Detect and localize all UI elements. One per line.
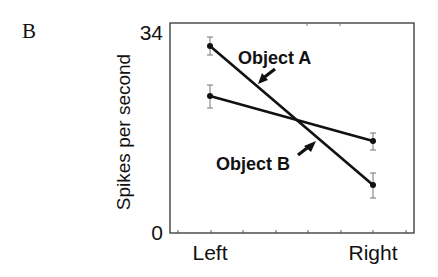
arrow-icon-object-b [298, 141, 316, 155]
x-tick-left: Left [192, 241, 227, 264]
x-tick-right: Right [348, 241, 397, 264]
y-tick-max: 34 [140, 21, 164, 44]
series-object-b [207, 93, 376, 144]
annotation-object-a: Object A [238, 48, 311, 68]
y-axis-title: Spikes per second [113, 54, 134, 210]
y-tick-min: 0 [151, 221, 163, 244]
arrow-icon-object-a [258, 69, 275, 84]
line-chart: 34 0 Spikes per second Left Right Object… [0, 0, 438, 277]
annotation-object-b: Object B [216, 154, 290, 174]
